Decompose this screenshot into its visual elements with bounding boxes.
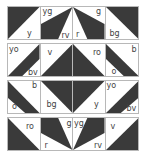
color-code-label: v bbox=[48, 49, 53, 57]
triangle-tile: ygrv bbox=[73, 118, 106, 150]
color-code-label: y bbox=[94, 101, 99, 109]
triangle-tile: v bbox=[41, 44, 74, 76]
grid-row-4: rogrygrvv bbox=[7, 117, 139, 151]
color-code-label: bv bbox=[28, 69, 38, 77]
triangle-shape-icon bbox=[41, 44, 73, 76]
color-code-label: y bbox=[27, 30, 32, 38]
color-code-label: o bbox=[112, 68, 117, 76]
triangle-tile: v bbox=[106, 118, 138, 150]
triangle-tile: gr bbox=[41, 118, 74, 150]
color-code-label: g bbox=[96, 8, 101, 16]
color-code-label: rv bbox=[62, 32, 70, 40]
grid-row-1: yygrvgrbg bbox=[7, 6, 139, 40]
color-code-label: yo bbox=[9, 46, 19, 54]
grid-row-3: bobgyyobv bbox=[7, 80, 139, 114]
triangle-tile: bo bbox=[106, 44, 138, 76]
color-code-label: bg bbox=[110, 30, 120, 38]
color-code-label: o bbox=[12, 103, 17, 111]
color-code-label: yg bbox=[43, 8, 53, 16]
triangle-tile: ygrv bbox=[41, 7, 74, 39]
triangle-tile: gr bbox=[73, 7, 106, 39]
color-code-label: yg bbox=[74, 120, 84, 128]
triangle-tile: ro bbox=[73, 44, 106, 76]
triangle-tile: bg bbox=[106, 7, 138, 39]
grid-row-2: yobvvrobo bbox=[7, 43, 139, 77]
color-code-label: r bbox=[76, 31, 79, 39]
color-code-label: bg bbox=[47, 101, 57, 109]
color-code-label: rv bbox=[94, 142, 102, 150]
color-code-label: v bbox=[111, 123, 116, 131]
triangle-tile: bo bbox=[8, 81, 41, 113]
triangle-tile: y bbox=[73, 81, 106, 113]
color-code-label: b bbox=[132, 46, 137, 54]
triangle-tile: y bbox=[8, 7, 41, 39]
color-code-label: ro bbox=[26, 123, 34, 131]
color-code-label: b bbox=[32, 82, 37, 90]
color-code-label: r bbox=[45, 142, 48, 150]
triangle-tile: yobv bbox=[8, 44, 41, 76]
triangle-tile: ro bbox=[8, 118, 41, 150]
color-code-label: ro bbox=[93, 49, 101, 57]
quilt-block-grid: yygrvgrbgyobvvrobobobgyyobvrogrygrvv bbox=[7, 6, 139, 154]
triangle-shape-icon bbox=[8, 118, 40, 150]
triangle-shape-icon bbox=[8, 7, 40, 39]
color-code-label: bv bbox=[127, 105, 137, 113]
triangle-tile: yobv bbox=[106, 81, 138, 113]
triangle-tile: bg bbox=[41, 81, 74, 113]
color-code-label: g bbox=[67, 120, 72, 128]
color-code-label: yo bbox=[107, 82, 117, 90]
triangle-shape-icon bbox=[73, 81, 105, 113]
